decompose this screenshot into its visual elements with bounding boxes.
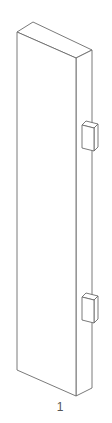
lower-bracket-right xyxy=(94,296,98,323)
lower-bracket-front xyxy=(82,297,94,323)
upper-bracket xyxy=(82,121,98,151)
lower-bracket xyxy=(82,293,98,323)
part-number-label: 1 xyxy=(52,400,68,414)
panel-front-face xyxy=(17,32,76,396)
upper-bracket-front xyxy=(82,125,94,151)
panel-drawing xyxy=(0,0,112,423)
panel-right-face xyxy=(76,50,92,396)
panel xyxy=(17,22,92,396)
upper-bracket-right xyxy=(94,124,98,151)
